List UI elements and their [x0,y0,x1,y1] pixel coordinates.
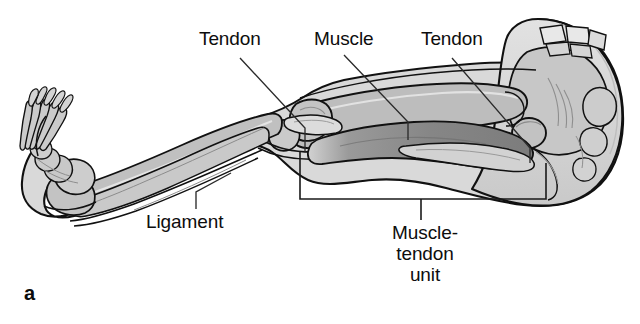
metatarsals [20,98,67,150]
label-mtu-line2: tendon [367,243,483,264]
panel-letter: a [24,283,35,303]
label-muscle-tendon-unit: Muscle- tendon unit [367,222,483,285]
proximal-tendon [284,115,342,134]
fibula [72,127,269,216]
label-mtu-line3: unit [367,264,483,285]
label-mtu-line1: Muscle- [367,222,483,243]
label-muscle: Muscle [314,28,374,49]
label-ligament: Ligament [146,211,223,232]
label-tendon-proximal: Tendon [199,28,261,49]
label-tendon-distal: Tendon [421,28,483,49]
anatomical-figure-panel: Tendon Muscle Tendon Ligament Muscle- te… [0,0,640,324]
